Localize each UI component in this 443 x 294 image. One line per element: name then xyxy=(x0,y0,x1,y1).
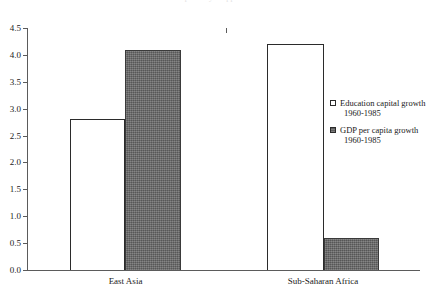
y-axis-tick-label: 4.5 xyxy=(10,24,21,33)
bar-chart: partially cropped title 0.00.51.01.52.02… xyxy=(0,0,443,294)
bar-filled-sub-saharan-africa xyxy=(324,238,379,270)
x-axis-label-east-asia: East Asia xyxy=(70,276,181,286)
y-axis-tick-label: 2.5 xyxy=(10,132,21,141)
y-axis-tick-label: 1.0 xyxy=(10,212,21,221)
legend-item-sublabel: 1960-1985 xyxy=(344,135,442,145)
y-axis-tick-mark xyxy=(23,162,27,163)
y-axis-tick-mark xyxy=(23,189,27,190)
bar-filled-east-asia xyxy=(125,50,181,270)
x-axis-line xyxy=(27,270,420,271)
y-axis-tick-mark xyxy=(23,55,27,56)
y-axis-tick-mark xyxy=(23,243,27,244)
y-axis-tick-mark xyxy=(23,28,27,29)
chart-legend: Education capital growth1960-1985GDP per… xyxy=(330,98,442,152)
y-axis-tick-label: 4.0 xyxy=(10,51,21,60)
bar-open-sub-saharan-africa xyxy=(267,44,324,270)
y-axis-tick-mark xyxy=(23,216,27,217)
y-axis-tick-label: 3.5 xyxy=(10,78,21,87)
cropped-title: partially cropped title xyxy=(0,0,443,3)
x-axis-tick-separator xyxy=(226,28,227,33)
y-axis-tick-mark xyxy=(23,82,27,83)
filled-square-icon xyxy=(330,127,336,133)
y-axis-tick-label: 2.0 xyxy=(10,158,21,167)
legend-item-sublabel: 1960-1985 xyxy=(344,108,442,118)
y-axis-tick-label: 1.5 xyxy=(10,185,21,194)
legend-item-label: Education capital growth xyxy=(340,98,442,108)
bar-open-east-asia xyxy=(70,119,125,270)
open-square-icon xyxy=(330,100,336,106)
legend-item-label: GDP per capita growth xyxy=(340,125,442,135)
x-axis-label-sub-saharan-africa: Sub-Saharan Africa xyxy=(267,276,379,286)
legend-item: Education capital growth1960-1985 xyxy=(330,98,442,118)
legend-item: GDP per capita growth1960-1985 xyxy=(330,125,442,145)
y-axis-tick-mark xyxy=(23,136,27,137)
y-axis-tick-mark xyxy=(23,109,27,110)
y-axis-tick-label: 3.0 xyxy=(10,105,21,114)
y-axis-tick-label: 0.5 xyxy=(10,239,21,248)
y-axis-tick-mark xyxy=(23,270,27,271)
y-axis-tick-label: 0.0 xyxy=(10,266,21,275)
